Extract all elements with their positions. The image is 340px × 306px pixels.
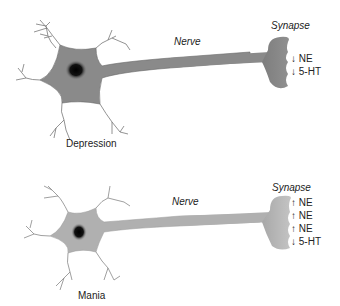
increase-arrow-icon: ↑	[291, 223, 296, 234]
nerve-label: Nerve	[172, 196, 199, 207]
neurotransmitter-list: ↓ NE ↓ 5-HT	[291, 52, 321, 78]
synaptic-terminal	[262, 196, 291, 250]
synapse-label: Synapse	[272, 182, 311, 193]
nucleus	[65, 60, 87, 80]
neurotransmitter-item: ↓ 5-HT	[291, 65, 321, 78]
nerve-label: Nerve	[174, 36, 201, 47]
caption-mania: Mania	[78, 290, 105, 301]
depression-neuron	[16, 20, 289, 140]
decrease-arrow-icon: ↓	[291, 53, 296, 64]
caption-depression: Depression	[66, 138, 117, 149]
decrease-arrow-icon: ↓	[291, 66, 296, 77]
neurotransmitter-list: ↑ NE ↑ NE ↑ NE ↓ 5-HT	[291, 196, 321, 248]
neurotransmitter-item: ↓ 5-HT	[291, 235, 321, 248]
neurotransmitter-item: ↓ NE	[291, 52, 321, 65]
neurotransmitter-item: ↑ NE	[291, 209, 321, 222]
increase-arrow-icon: ↑	[291, 210, 296, 221]
mania-neuron	[24, 186, 291, 290]
neuron-diagram	[0, 0, 340, 306]
neurotransmitter-item: ↑ NE	[291, 222, 321, 235]
decrease-arrow-icon: ↓	[291, 236, 296, 247]
increase-arrow-icon: ↑	[291, 197, 296, 208]
synaptic-terminal	[262, 37, 289, 88]
synapse-label: Synapse	[271, 20, 310, 31]
axon	[180, 212, 272, 226]
neurotransmitter-item: ↑ NE	[291, 196, 321, 209]
nucleus	[71, 223, 87, 241]
